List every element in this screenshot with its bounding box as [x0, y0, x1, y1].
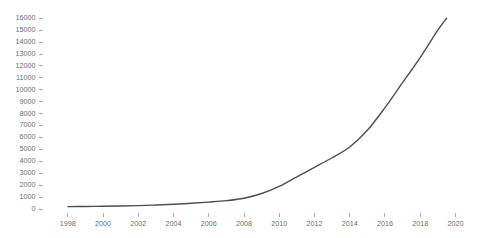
y-tick-label: 5000	[20, 144, 36, 153]
x-tick-label: 2000	[95, 219, 111, 228]
x-tick-label: 2016	[377, 219, 393, 228]
y-tick-label: 15000	[16, 25, 36, 34]
y-tick-label: 11000	[16, 73, 35, 82]
y-tick-label: 1000	[20, 192, 36, 201]
x-tick-label: 2020	[447, 219, 463, 228]
chart-canvas: 0100020003000400050006000700080009000100…	[0, 0, 487, 238]
y-tick-label: 16000	[16, 13, 36, 22]
x-tick-label: 1998	[60, 219, 76, 228]
y-tick-label: 0	[32, 204, 36, 213]
x-tick-label: 2018	[412, 219, 428, 228]
x-tick-label: 2012	[306, 219, 322, 228]
line-chart: 0100020003000400050006000700080009000100…	[0, 0, 487, 238]
y-tick-label: 12000	[16, 61, 36, 70]
y-tick-label: 4000	[20, 156, 36, 165]
y-tick-label: 9000	[20, 97, 36, 106]
x-tick-label: 2006	[201, 219, 217, 228]
x-tick-label: 2008	[236, 219, 252, 228]
y-tick-label: 2000	[20, 180, 36, 189]
series-group	[68, 18, 447, 206]
x-axis-group: 1998200020022004200620082010201220142016…	[60, 213, 464, 228]
y-tick-label: 7000	[20, 120, 36, 129]
x-tick-label: 2002	[130, 219, 146, 228]
x-tick-label: 2014	[342, 219, 358, 228]
y-tick-label: 6000	[20, 132, 36, 141]
y-tick-label: 3000	[20, 168, 36, 177]
x-tick-label: 2004	[166, 219, 182, 228]
y-tick-label: 13000	[16, 49, 36, 58]
y-tick-label: 8000	[20, 109, 36, 118]
x-tick-label: 2010	[271, 219, 287, 228]
y-axis-group: 0100020003000400050006000700080009000100…	[16, 13, 44, 213]
series-line	[68, 18, 447, 206]
y-tick-label: 14000	[16, 37, 36, 46]
y-tick-label: 10000	[16, 85, 36, 94]
